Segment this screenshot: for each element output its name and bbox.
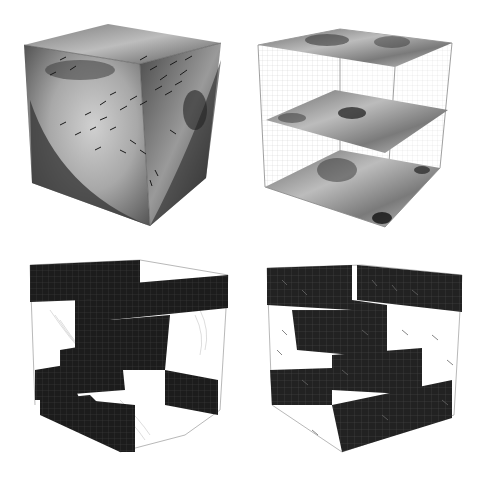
panel-obstacle-vectors bbox=[242, 240, 484, 480]
vector-field-cube-graphic bbox=[0, 0, 242, 240]
panel-vector-field-cube bbox=[0, 0, 242, 240]
panel-obstacle-streamlines bbox=[0, 240, 242, 480]
panel-slice-cube bbox=[242, 0, 484, 240]
slice-cube-graphic bbox=[242, 0, 485, 240]
obstacle-streamlines-graphic bbox=[0, 240, 242, 481]
figure bbox=[0, 0, 485, 481]
obstacle-vectors-graphic bbox=[242, 240, 485, 481]
